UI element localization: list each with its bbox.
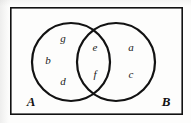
- region-label-b: b: [45, 55, 51, 66]
- set-label-a: A: [27, 95, 36, 108]
- region-label-e: e: [93, 42, 98, 53]
- region-label-g: g: [60, 33, 66, 44]
- region-label-c: c: [129, 69, 134, 80]
- region-label-f: f: [93, 69, 96, 80]
- set-a-circle: [32, 23, 110, 101]
- universal-set-rectangle: [11, 8, 182, 114]
- venn-diagram-figure: g b d e f a c A B: [0, 0, 191, 123]
- region-label-d: d: [60, 76, 66, 87]
- set-b-circle: [77, 23, 155, 101]
- set-label-b: B: [162, 95, 171, 108]
- region-label-a: a: [128, 42, 134, 53]
